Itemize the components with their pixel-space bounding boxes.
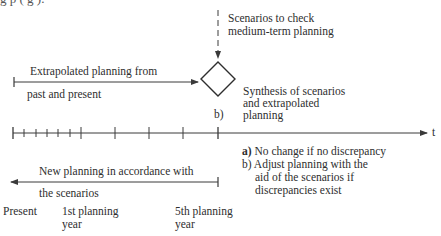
note-a-marker: a) [242,145,252,157]
new-planning-arrow [11,177,218,187]
note-b-line3: discrepancies exist [255,184,342,197]
synthesis-diamond-icon [201,62,235,96]
note-b: b) Adjust planning with the [242,158,368,171]
label-fifth-year-line1: 5th planning [175,205,233,218]
new-planning-label-line2: the scenarios [39,187,99,200]
label-fifth-year-line2: year [175,218,195,231]
diamond-marker-b: b) [214,108,224,121]
note-b-marker: b) [242,158,252,170]
extrapolated-label-line1: Extrapolated planning from [30,65,157,78]
planning-diagram: g p ( g ). [0,0,441,236]
note-b-line1: Adjust planning with the [254,158,368,170]
label-first-year-line2: year [62,218,82,231]
time-axis-label: t [432,126,435,139]
extrapolated-label-line2: past and present [27,88,101,101]
time-axis [13,127,427,139]
note-a-text: No change if no discrepancy [254,145,386,157]
scenarios-label-line1: Scenarios to check [228,12,314,25]
label-present: Present [3,205,37,218]
new-planning-label-line1: New planning in accordance with [39,165,194,178]
scenarios-label-line2: medium-term planning [228,25,334,38]
note-a: a) No change if no discrepancy [242,145,386,158]
synthesis-label-line3: planning [243,109,283,122]
note-b-line2: aid of the scenarios if [255,171,354,184]
extrapolated-arrow [14,77,198,87]
label-first-year-line1: 1st planning [62,205,119,218]
